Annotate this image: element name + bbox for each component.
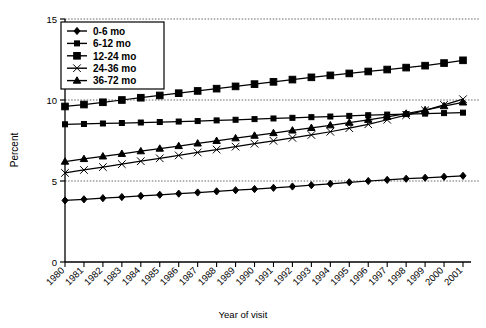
y-tick-label-15: 15 (46, 14, 57, 25)
data-point (195, 119, 200, 124)
data-point (100, 99, 107, 106)
legend-marker-small-square-icon (75, 41, 80, 46)
y-axis-title: Percent (9, 133, 20, 168)
data-point (175, 90, 182, 97)
x-axis-title: Year of visit (219, 309, 268, 320)
data-point (119, 121, 124, 126)
data-point (289, 76, 296, 83)
legend-marker-large-square-icon (74, 53, 81, 60)
legend-label: 36-72 mo (93, 75, 136, 86)
data-point (403, 64, 410, 71)
data-point (270, 79, 277, 86)
data-point (138, 94, 145, 101)
data-point (252, 117, 257, 122)
data-point (63, 122, 68, 127)
data-point (214, 118, 219, 123)
data-point (442, 111, 447, 116)
data-point (384, 66, 391, 73)
chart-figure: 051015 198019811982198319841985198619871… (0, 0, 486, 328)
legend-label: 6-12 mo (93, 38, 131, 49)
data-point (346, 70, 353, 77)
data-point (460, 57, 467, 64)
data-point (309, 115, 314, 120)
y-tick-label-10: 10 (46, 95, 57, 106)
data-point (100, 121, 105, 126)
data-point (194, 88, 201, 95)
data-point (422, 62, 429, 69)
data-point (441, 60, 448, 67)
data-point (365, 68, 372, 75)
chart-legend: 0-6 mo6-12 mo12-24 mo24-36 mo36-72 mo (61, 22, 164, 89)
data-point (176, 119, 181, 124)
data-point (328, 114, 333, 119)
data-point (308, 74, 315, 81)
data-point (271, 116, 276, 121)
data-point (461, 110, 466, 115)
data-point (81, 101, 88, 108)
y-tick-label-5: 5 (52, 176, 57, 187)
data-point (157, 120, 162, 125)
legend-label: 0-6 mo (93, 26, 125, 37)
data-point (62, 103, 69, 110)
data-point (232, 83, 239, 90)
data-point (138, 120, 143, 125)
data-point (156, 92, 163, 99)
data-point (347, 113, 352, 118)
data-point (251, 81, 258, 88)
line-chart-svg: 051015 198019811982198319841985198619871… (0, 0, 486, 328)
data-point (119, 97, 126, 104)
data-point (233, 117, 238, 122)
legend-label: 12-24 mo (93, 51, 136, 62)
data-point (290, 115, 295, 120)
data-point (327, 72, 334, 79)
legend-label: 24-36 mo (93, 63, 136, 74)
data-point (81, 121, 86, 126)
data-point (213, 85, 220, 92)
